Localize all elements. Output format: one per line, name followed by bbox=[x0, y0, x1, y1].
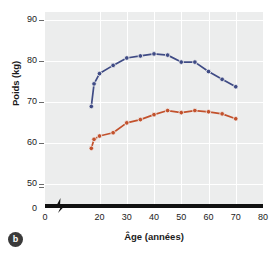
data-point-marker bbox=[152, 52, 157, 57]
data-point-marker bbox=[193, 108, 198, 113]
x-tick-label: 70 bbox=[225, 212, 247, 222]
y-tick-label: 90 bbox=[13, 14, 37, 24]
data-point-marker bbox=[206, 109, 211, 114]
data-point-marker bbox=[165, 108, 170, 113]
panel-label-badge: b bbox=[8, 232, 23, 247]
series-line bbox=[91, 111, 235, 149]
data-point-marker bbox=[233, 116, 238, 121]
series-upper-series bbox=[89, 52, 238, 109]
y-axis-title: Poids (kg) bbox=[10, 39, 21, 129]
data-point-marker bbox=[97, 71, 102, 76]
y-tick-mark bbox=[39, 102, 44, 103]
data-point-marker bbox=[124, 121, 129, 126]
data-point-marker bbox=[97, 134, 102, 139]
y-tick-mark bbox=[39, 143, 44, 144]
data-point-marker bbox=[206, 69, 211, 74]
data-point-marker bbox=[138, 54, 143, 59]
x-tick-label: 40 bbox=[143, 212, 165, 222]
data-point-marker bbox=[138, 117, 143, 122]
x-tick-label: 20 bbox=[89, 212, 111, 222]
data-point-marker bbox=[111, 63, 116, 68]
data-point-marker bbox=[152, 112, 157, 117]
data-point-marker bbox=[193, 60, 198, 65]
data-point-marker bbox=[111, 130, 116, 135]
data-point-marker bbox=[179, 110, 184, 115]
weight-by-age-chart-figure: 50607080900 Poids (kg) 020304050607080 Â… bbox=[0, 0, 271, 255]
data-point-marker bbox=[92, 137, 97, 142]
data-point-marker bbox=[179, 60, 184, 65]
x-tick-label: 60 bbox=[198, 212, 220, 222]
series-line bbox=[91, 54, 235, 107]
data-point-marker bbox=[124, 56, 129, 61]
data-point-marker bbox=[89, 104, 94, 109]
axis-break-icon bbox=[54, 197, 68, 214]
data-point-marker bbox=[233, 84, 238, 89]
y-axis-break-stub bbox=[39, 187, 44, 188]
x-tick-label: 30 bbox=[116, 212, 138, 222]
x-tick-label: 80 bbox=[252, 212, 271, 222]
x-tick-label: 0 bbox=[34, 212, 56, 222]
y-tick-label: 50 bbox=[13, 178, 37, 188]
y-tick-mark bbox=[39, 20, 44, 21]
x-axis-title: Âge (années) bbox=[45, 231, 263, 242]
data-point-marker bbox=[220, 77, 225, 82]
y-tick-mark bbox=[39, 61, 44, 62]
y-tick-label: 60 bbox=[13, 137, 37, 147]
x-tick-label: 50 bbox=[170, 212, 192, 222]
data-point-marker bbox=[92, 82, 97, 87]
data-point-marker bbox=[165, 53, 170, 58]
x-axis-line bbox=[45, 204, 263, 208]
plot-area bbox=[45, 12, 263, 205]
series-lower-series bbox=[89, 108, 238, 150]
data-point-marker bbox=[89, 146, 94, 151]
y-tick-mark bbox=[39, 184, 44, 185]
data-point-marker bbox=[220, 112, 225, 117]
data-series-layer bbox=[45, 12, 263, 205]
